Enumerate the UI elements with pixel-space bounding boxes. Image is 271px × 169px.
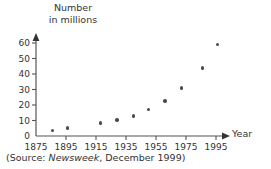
x-tick-label: 1995: [199, 143, 233, 152]
y-axis-arrowhead: [33, 33, 40, 41]
y-tick-label: 30: [8, 86, 30, 95]
x-tick-label: 1875: [19, 143, 53, 152]
x-tick-label: 1895: [49, 143, 83, 152]
data-point: [163, 99, 167, 103]
data-point: [132, 114, 136, 118]
x-tick-label: 1955: [139, 143, 173, 152]
x-tick-label: 1935: [109, 143, 143, 152]
caption-suffix: , December 1999): [99, 152, 185, 163]
y-tick-label: 10: [8, 117, 30, 126]
data-point: [180, 86, 184, 90]
y-tick-label: 0: [8, 132, 30, 141]
y-tick-label: 20: [8, 101, 30, 110]
y-tick-label: 50: [8, 55, 30, 64]
x-axis-title: Year: [232, 129, 252, 139]
x-tick-label: 1975: [169, 143, 203, 152]
y-tick-label: 60: [8, 39, 30, 48]
x-axis-arrowhead: [222, 133, 230, 140]
chart-figure: Number in millions 60 50 40 30 20 10 0 1…: [0, 0, 271, 169]
caption-publication: Newsweek: [49, 152, 100, 163]
x-tick-label: 1915: [79, 143, 113, 152]
data-point: [99, 121, 103, 125]
y-tick-label: 40: [8, 70, 30, 79]
data-point: [201, 66, 205, 70]
caption-prefix: (Source:: [6, 152, 49, 163]
data-point: [115, 118, 119, 122]
source-caption: (Source: Newsweek, December 1999): [6, 152, 185, 164]
x-axis-ticks: [66, 136, 216, 140]
